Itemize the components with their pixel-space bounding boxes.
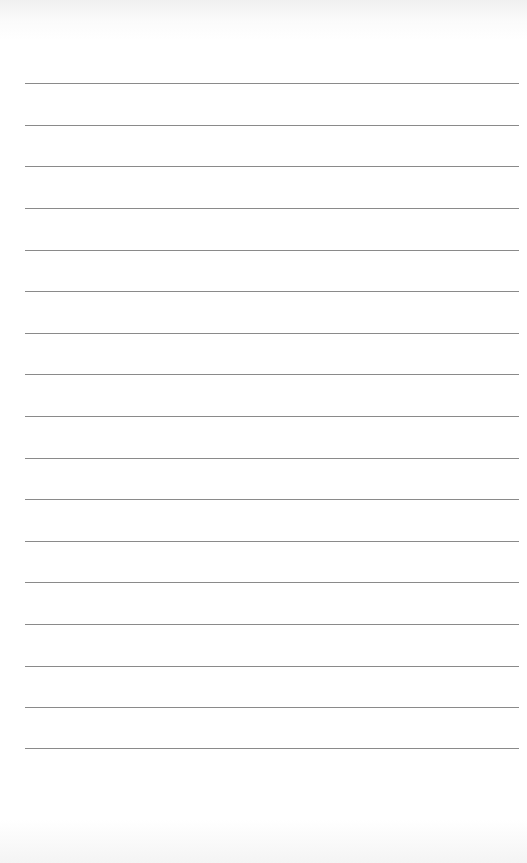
ruled-line — [25, 458, 519, 459]
ruled-line — [25, 499, 519, 500]
ruled-line — [25, 582, 519, 583]
ruled-line — [25, 374, 519, 375]
lined-paper-sheet — [0, 0, 527, 863]
ruled-line — [25, 624, 519, 625]
ruled-line — [25, 291, 519, 292]
ruled-line — [25, 707, 519, 708]
ruled-line — [25, 748, 519, 749]
ruled-line — [25, 83, 519, 84]
ruled-line — [25, 125, 519, 126]
ruled-line — [25, 208, 519, 209]
ruled-line — [25, 250, 519, 251]
ruled-line — [25, 541, 519, 542]
ruled-line — [25, 666, 519, 667]
ruled-line — [25, 166, 519, 167]
ruled-line — [25, 333, 519, 334]
ruled-line — [25, 416, 519, 417]
